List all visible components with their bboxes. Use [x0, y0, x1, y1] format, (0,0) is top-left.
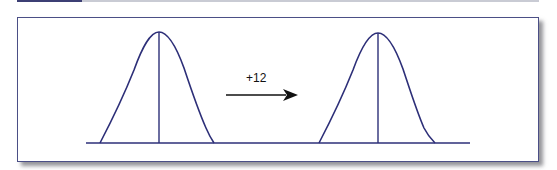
shift-amount-label: +12 — [246, 71, 266, 85]
shifted-distribution-curve — [319, 33, 435, 143]
original-distribution-curve — [100, 32, 214, 143]
distribution-shift-diagram — [0, 0, 557, 170]
